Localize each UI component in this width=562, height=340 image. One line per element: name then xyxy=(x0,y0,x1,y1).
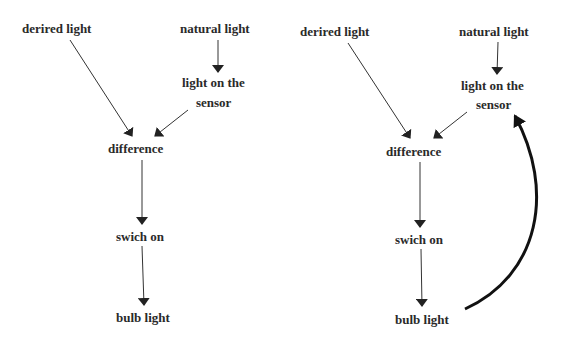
left-node-desired-light: derired light xyxy=(22,20,91,37)
right-node-switch-on: swich on xyxy=(395,231,443,248)
left-node-sensor-1: light on the xyxy=(182,74,245,91)
right-node-desired-light: derired light xyxy=(300,23,369,40)
left-node-natural-light: natural light xyxy=(180,20,250,37)
left-node-sensor-2: sensor xyxy=(196,94,231,111)
right-node-difference: difference xyxy=(386,143,441,160)
right-node-bulb-light: bulb light xyxy=(395,311,449,328)
left-node-switch-on: swich on xyxy=(116,228,164,245)
feedback-arrow xyxy=(465,116,537,309)
left-node-bulb-light: bulb light xyxy=(116,309,170,326)
arrows-layer xyxy=(0,0,562,340)
left-node-difference: difference xyxy=(108,140,163,157)
right-node-sensor-1: light on the xyxy=(461,77,524,94)
right-node-natural-light: natural light xyxy=(459,23,529,40)
right-node-sensor-2: sensor xyxy=(476,96,511,113)
